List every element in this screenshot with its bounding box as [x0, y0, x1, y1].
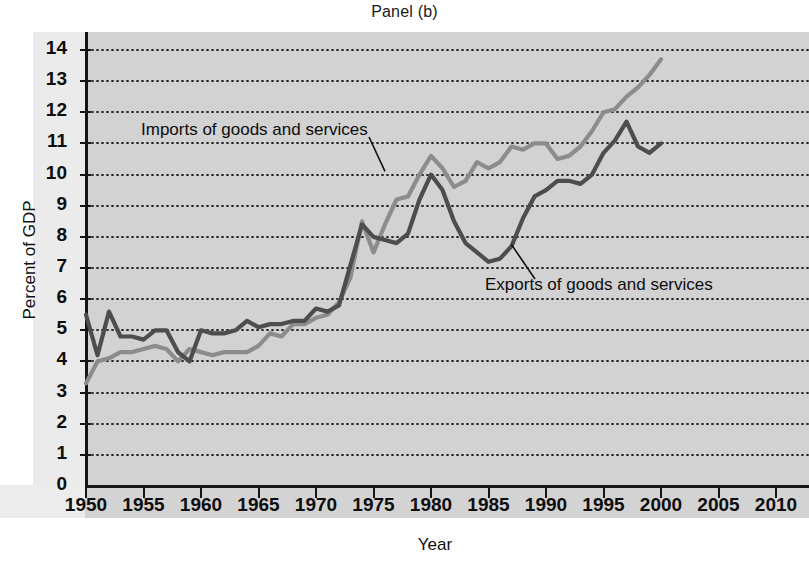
- gridline: [90, 423, 809, 425]
- y-tick-label: 11: [27, 130, 67, 152]
- y-axis-label: Percent of GDP: [20, 170, 40, 350]
- y-tick: [80, 236, 91, 238]
- y-tick: [80, 392, 91, 394]
- y-tick: [80, 454, 91, 456]
- y-tick-label: 1: [27, 442, 67, 464]
- gridline: [90, 360, 809, 362]
- y-tick-label: 13: [27, 68, 67, 90]
- y-tick: [80, 329, 91, 331]
- gridline: [90, 329, 809, 331]
- x-axis-label: Year: [85, 535, 785, 555]
- gridline: [90, 142, 809, 144]
- y-tick-label: 2: [27, 411, 67, 433]
- annotation-exports: Exports of goods and services: [485, 275, 713, 295]
- gridline: [90, 267, 809, 269]
- y-tick: [80, 205, 91, 207]
- gridline: [90, 111, 809, 113]
- y-tick-label: 3: [27, 380, 67, 402]
- gridline: [90, 454, 809, 456]
- y-tick: [80, 298, 91, 300]
- y-axis-line: [85, 32, 88, 488]
- y-tick: [80, 423, 91, 425]
- page-title: Panel (b): [0, 3, 809, 21]
- chart-figure: Panel (b) 01234567891011121314 195019551…: [0, 0, 809, 573]
- gridline: [90, 236, 809, 238]
- y-tick: [80, 360, 91, 362]
- gridline: [90, 174, 809, 176]
- y-tick-label: 4: [27, 348, 67, 370]
- annotation-imports: Imports of goods and services: [141, 120, 368, 140]
- gridline: [90, 298, 809, 300]
- plot-area-background: [85, 32, 809, 485]
- y-tick: [80, 80, 91, 82]
- y-tick: [80, 111, 91, 113]
- gridline: [90, 80, 809, 82]
- y-tick-label: 14: [27, 37, 67, 59]
- gridline: [90, 205, 809, 207]
- x-tick-label: 2010: [736, 494, 809, 516]
- y-tick: [80, 174, 91, 176]
- gridline: [90, 392, 809, 394]
- y-tick: [80, 49, 91, 51]
- y-tick: [80, 142, 91, 144]
- y-tick-label: 0: [27, 473, 67, 495]
- gridline: [90, 49, 809, 51]
- x-axis-line: [85, 485, 809, 488]
- y-tick: [80, 267, 91, 269]
- y-tick-label: 12: [27, 99, 67, 121]
